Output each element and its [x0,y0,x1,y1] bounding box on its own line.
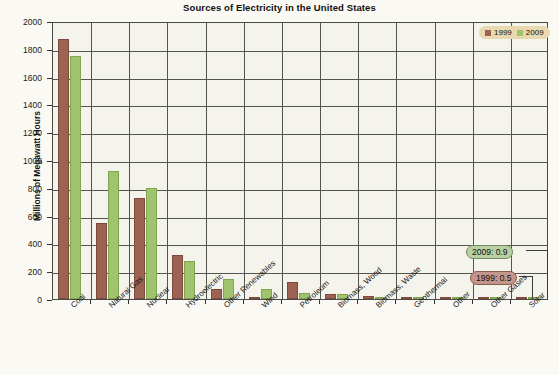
y-axis-tick-label: 800 [0,184,42,194]
y-axis-tick-label: 0 [0,295,42,305]
annotation-callout-2009: 2009: 0.9 [466,245,513,259]
annotation-leader-line-1999-horizontal [519,276,533,277]
x-axis-tick [128,300,129,304]
bar-group [396,23,434,299]
bar-group [358,23,396,299]
bar-group [282,23,320,299]
y-axis-tick [47,161,52,162]
bar-1999-other [440,297,451,299]
y-axis-tick [47,22,52,23]
y-axis-tick [47,50,52,51]
y-axis-tick [47,105,52,106]
bar-group [129,23,167,299]
bar-2009-nuclear [146,188,157,299]
y-axis-tick-label: 1800 [0,45,42,55]
x-axis-tick [510,300,511,304]
bar-1999-other-renewables [211,289,222,299]
y-axis-tick-label: 1600 [0,73,42,83]
annotation-leader-line-2009-horizontal [526,250,548,251]
annotation-leader-line-2009-vertical [547,250,548,300]
chart-container: Sources of Electricity in the United Sta… [0,0,559,375]
y-axis-tick-label: 600 [0,212,42,222]
y-axis-tick [47,244,52,245]
x-axis-tick [90,300,91,304]
bar-1999-coal [58,39,69,299]
annotation-leader-line-1999-vertical [532,276,533,300]
bar-2009-natural-gas [108,171,119,299]
legend-label-2009: 2009 [526,28,544,37]
chart-title: Sources of Electricity in the United Sta… [0,2,559,13]
bar-group [53,23,91,299]
x-axis-tick [395,300,396,304]
x-axis-tick [472,300,473,304]
bar-1999-other-gases [478,297,489,299]
bar-1999-hydroelectric [172,255,183,299]
bar-group [206,23,244,299]
y-axis-tick-label: 200 [0,267,42,277]
y-axis-tick [47,300,52,301]
bar-1999-wind [249,297,260,299]
bar-1999-biomass-waste [363,296,374,299]
x-axis-tick [205,300,206,304]
y-axis-tick-label: 400 [0,239,42,249]
y-axis-tick-label: 1000 [0,156,42,166]
legend-label-1999: 1999 [494,28,512,37]
bar-1999-biomass-wood [325,294,336,299]
legend-swatch-icon-1999 [485,30,491,36]
y-axis-tick [47,78,52,79]
x-axis-tick [166,300,167,304]
y-axis-tick [47,272,52,273]
x-axis-tick [357,300,358,304]
bar-1999-petroleum [287,282,298,299]
x-axis-tick [319,300,320,304]
x-axis-tick [434,300,435,304]
bar-group [167,23,205,299]
bar-group [244,23,282,299]
legend-item-2009: 2009 [517,28,544,37]
bar-group [91,23,129,299]
bar-group [435,23,473,299]
bar-1999-natural-gas [96,223,107,299]
annotation-callout-1999: 1999: 0.5 [470,271,517,285]
bar-1999-geothermal [401,297,412,299]
legend-item-1999: 1999 [485,28,512,37]
y-axis-tick [47,217,52,218]
x-axis-tick [243,300,244,304]
y-axis-tick-label: 1400 [0,100,42,110]
y-axis-tick-label: 1200 [0,128,42,138]
y-axis-tick [47,189,52,190]
y-axis-tick-label: 2000 [0,17,42,27]
bar-2009-coal [70,56,81,299]
chart-legend: 1999 2009 [479,26,550,39]
bar-group [320,23,358,299]
legend-swatch-icon-2009 [517,30,523,36]
y-axis-title: Millions of Megawatt Hours [32,66,42,266]
x-axis-tick [281,300,282,304]
bar-group [511,23,549,299]
y-axis-tick [47,133,52,134]
bar-1999-solar [516,297,527,299]
